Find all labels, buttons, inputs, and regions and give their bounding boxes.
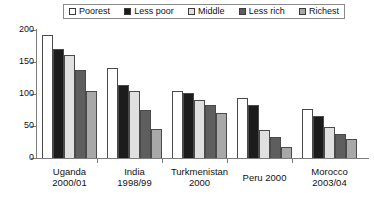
category-label-line-2: 2000 (167, 177, 232, 188)
category-label-line-2: 2000/01 (37, 177, 102, 188)
category-label: Uganda2000/01 (37, 166, 102, 188)
bar-less-rich (140, 110, 151, 158)
category-label: Turkmenistan2000 (167, 166, 232, 188)
category-label-line-1: Turkmenistan (167, 166, 232, 177)
bar-group (237, 30, 292, 158)
bar-poorest (302, 109, 313, 158)
bar-less-poor (53, 49, 64, 158)
y-tick-label: 0 (8, 153, 34, 162)
bar-less-rich (75, 70, 86, 158)
bar-less-rich (335, 134, 346, 158)
category-label-line-1: Peru 2000 (232, 172, 297, 183)
x-tick-mark (97, 159, 98, 163)
bar-less-rich (205, 105, 216, 158)
plot-area (36, 30, 368, 158)
bar-poorest (237, 98, 248, 158)
bar-less-poor (118, 85, 129, 158)
category-label-line-1: Uganda (37, 166, 102, 177)
category-label: Morocco2003/04 (297, 166, 362, 188)
chart-legend: PoorestLess poorMiddleLess richRichest (63, 4, 345, 19)
bar-middle (259, 130, 270, 158)
bar-middle (194, 100, 205, 158)
legend-label: Poorest (79, 7, 110, 16)
x-tick-mark (227, 159, 228, 163)
bar-group (42, 30, 97, 158)
legend-item-less-poor: Less poor (124, 7, 174, 16)
legend-swatch-icon (188, 8, 195, 15)
bar-richest (281, 147, 292, 158)
legend-swatch-icon (124, 8, 131, 15)
category-label-line-1: Morocco (297, 166, 362, 177)
y-tick-label: 150 (8, 57, 34, 66)
legend-swatch-icon (69, 8, 76, 15)
x-axis-line (36, 158, 369, 159)
y-tick-label: 50 (8, 121, 34, 130)
category-label-line-2: 2003/04 (297, 177, 362, 188)
legend-swatch-icon (239, 8, 246, 15)
bar-middle (129, 91, 140, 158)
bar-poorest (42, 35, 53, 158)
bar-middle (324, 127, 335, 158)
y-tick-label: 100 (8, 89, 34, 98)
category-label: India1998/99 (102, 166, 167, 188)
bar-group (172, 30, 227, 158)
bar-middle (64, 55, 75, 158)
legend-label: Less poor (134, 7, 174, 16)
bar-group (302, 30, 357, 158)
legend-label: Middle (198, 7, 225, 16)
bar-poorest (107, 68, 118, 158)
legend-swatch-icon (299, 8, 306, 15)
category-label: Peru 2000 (232, 172, 297, 183)
legend-item-less-rich: Less rich (239, 7, 285, 16)
category-label-line-2: 1998/99 (102, 177, 167, 188)
bar-less-poor (313, 116, 324, 158)
legend-label: Less rich (249, 7, 285, 16)
x-tick-mark (292, 159, 293, 163)
legend-item-richest: Richest (299, 7, 339, 16)
bar-less-poor (183, 93, 194, 158)
category-label-line-1: India (102, 166, 167, 177)
bar-richest (86, 91, 97, 158)
bar-richest (346, 139, 357, 158)
bar-group (107, 30, 162, 158)
y-tick-label: 200 (8, 25, 34, 34)
bar-richest (216, 113, 227, 158)
bar-less-rich (270, 137, 281, 158)
bar-less-poor (248, 105, 259, 158)
x-tick-mark (162, 159, 163, 163)
bar-poorest (172, 91, 183, 158)
legend-label: Richest (309, 7, 339, 16)
legend-item-middle: Middle (188, 7, 225, 16)
legend-item-poorest: Poorest (69, 7, 110, 16)
bar-richest (151, 129, 162, 158)
